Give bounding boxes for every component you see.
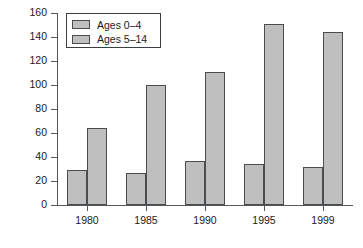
x-axis-tick xyxy=(87,205,88,211)
bar xyxy=(264,24,284,205)
bar xyxy=(87,128,107,205)
y-axis-tick: 40 xyxy=(51,157,57,158)
x-axis-tick-label: 1999 xyxy=(311,214,334,226)
y-axis-tick: 120 xyxy=(51,61,57,62)
x-axis-tick-label: 1995 xyxy=(252,214,275,226)
y-axis-tick: 100 xyxy=(51,85,57,86)
x-axis-tick-label: 1980 xyxy=(75,214,98,226)
legend-swatch-icon xyxy=(72,20,90,29)
bar xyxy=(205,72,225,205)
legend-swatch-icon xyxy=(72,35,90,44)
y-axis-tick-label: 120 xyxy=(29,54,47,66)
y-axis-tick: 80 xyxy=(51,109,57,110)
bar-chart: Deaths 020406080100120140160 19801985199… xyxy=(0,0,363,248)
y-axis-tick-label: 100 xyxy=(29,78,47,90)
y-axis-line xyxy=(57,13,58,205)
x-axis-tick xyxy=(323,205,324,211)
y-axis-tick-label: 60 xyxy=(35,126,47,138)
legend: Ages 0–4 Ages 5–14 xyxy=(66,13,161,48)
x-axis-tick xyxy=(205,205,206,211)
bar xyxy=(303,167,323,205)
bar xyxy=(67,170,87,205)
y-axis-tick: 60 xyxy=(51,133,57,134)
y-axis-tick-label: 20 xyxy=(35,174,47,186)
y-axis-tick: 140 xyxy=(51,37,57,38)
bar xyxy=(323,32,343,205)
x-axis-tick-label: 1990 xyxy=(193,214,216,226)
x-axis-tick xyxy=(264,205,265,211)
y-axis-title: Deaths xyxy=(0,0,16,16)
y-axis-title-text: Deaths xyxy=(0,0,16,16)
y-axis-tick-label: 160 xyxy=(29,6,47,18)
x-axis-tick xyxy=(146,205,147,211)
bar xyxy=(185,161,205,205)
legend-item: Ages 0–4 xyxy=(72,18,155,32)
legend-item-label: Ages 5–14 xyxy=(97,33,147,45)
bar xyxy=(126,173,146,205)
y-axis-tick-label: 40 xyxy=(35,150,47,162)
bar xyxy=(146,85,166,205)
bar xyxy=(244,164,264,205)
y-axis-tick-label: 0 xyxy=(41,198,47,210)
legend-item-label: Ages 0–4 xyxy=(97,19,141,31)
x-axis-tick-label: 1985 xyxy=(134,214,157,226)
y-axis-tick: 160 xyxy=(51,13,57,14)
y-axis-tick: 20 xyxy=(51,181,57,182)
legend-item: Ages 5–14 xyxy=(72,32,155,46)
y-axis-tick-label: 80 xyxy=(35,102,47,114)
y-axis-tick-label: 140 xyxy=(29,30,47,42)
y-axis-tick: 0 xyxy=(51,205,57,206)
